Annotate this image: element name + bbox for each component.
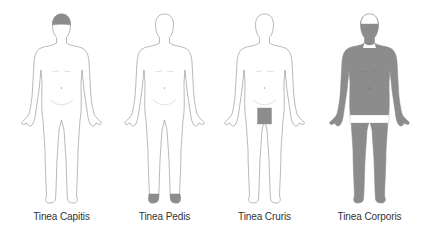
affected-area-scalp bbox=[53, 14, 71, 25]
figure-tinea-pedis: Tinea Pedis bbox=[111, 0, 218, 234]
affected-area-groin bbox=[258, 108, 272, 124]
figure-label: Tinea Corporis bbox=[316, 211, 423, 222]
body-diagram-icon bbox=[211, 0, 318, 210]
body-diagram-icon bbox=[316, 0, 423, 210]
figure-label: Tinea Cruris bbox=[211, 211, 318, 222]
unaffected-area-buttocks bbox=[350, 115, 389, 123]
body-diagram-icon bbox=[111, 0, 218, 210]
unaffected-area-scalp bbox=[361, 14, 378, 24]
figure-tinea-cruris: Tinea Cruris bbox=[211, 0, 318, 234]
figure-label: Tinea Capitis bbox=[8, 211, 115, 222]
figure-tinea-capitis: Tinea Capitis bbox=[8, 0, 115, 234]
figure-tinea-corporis: Tinea Corporis bbox=[316, 0, 423, 234]
body-diagram-icon bbox=[8, 0, 115, 210]
figure-label: Tinea Pedis bbox=[111, 211, 218, 222]
